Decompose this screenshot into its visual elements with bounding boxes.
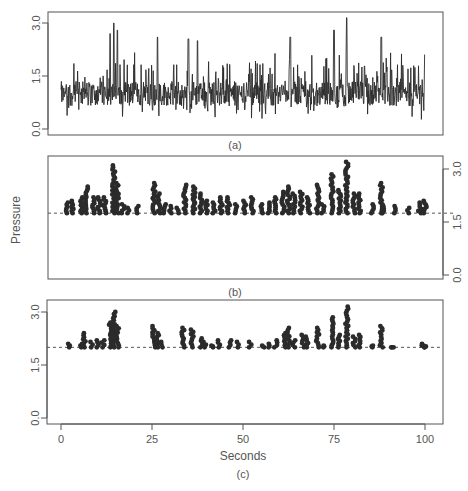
data-point [198,191,203,196]
data-point [407,206,412,211]
data-point [344,160,349,165]
data-point [114,181,119,186]
data-point [290,191,295,196]
data-point [113,310,118,315]
data-point [298,190,303,195]
data-point [392,204,397,209]
data-point [94,338,99,343]
data-point [337,333,342,338]
panel-a-caption: (a) [228,139,241,151]
data-point [336,188,341,193]
data-point [315,326,320,331]
data-point [378,324,383,329]
data-point [357,191,362,196]
data-point [225,195,230,200]
panel-c-y-axis: 3.0 1.5 0.0 [29,304,47,425]
panel-a-ytick-3: 3.0 [30,15,42,30]
data-point [96,195,101,200]
panel-a-line-series [61,18,425,120]
data-point [274,338,279,343]
data-point [379,181,384,186]
data-point [421,343,426,348]
data-point [102,338,107,343]
data-point [180,326,185,331]
data-point [155,331,160,336]
panel-a-ytick-0: 0.0 [30,121,42,136]
data-point [191,184,196,189]
data-point [201,340,206,345]
data-point [266,341,271,346]
panel-c-exceedances-threshold-2-0: 3.0 1.5 0.0 0 25 50 75 100 Seconds (c) [29,300,443,480]
data-point [111,163,116,168]
figure: 3.0 1.5 0.0 (a) 3.0 1.5 0.0 (b) Pressur [0,0,468,491]
data-point [303,334,308,339]
data-point [293,338,298,343]
data-point [241,198,246,203]
panel-a-ytick-1-5: 1.5 [30,68,42,83]
panel-b-y-axis-right: 3.0 1.5 0.0 [443,161,463,282]
data-point [315,183,320,188]
data-point [260,202,265,207]
data-point [114,324,119,329]
data-point [152,181,157,186]
data-point [229,338,234,343]
pressure-line [61,18,425,120]
data-point [370,202,375,207]
data-point [211,200,216,205]
panel-c-ytick-1-5: 1.5 [29,357,41,372]
data-point [157,191,162,196]
panel-b-ytick-3: 3.0 [451,161,463,176]
data-point [249,195,254,200]
x-axis-label: Seconds [220,449,267,463]
panel-b-scatter-points [64,160,429,216]
data-point [380,202,385,207]
data-point [102,195,107,200]
panel-c-x-axis: 0 25 50 75 100 [58,424,434,445]
data-point [69,198,74,203]
x-tick-0: 0 [58,433,64,445]
x-tick-50: 50 [237,433,249,445]
data-point [273,195,278,200]
data-point [235,340,240,345]
data-point [82,331,87,336]
panel-c-scatter-points [66,304,429,349]
panel-b-caption: (b) [228,286,241,298]
data-point [319,202,324,207]
panel-c-caption: (c) [237,468,250,480]
x-tick-25: 25 [146,433,158,445]
panel-b-frame [48,156,443,279]
data-point [371,343,376,348]
y-axis-label: Pressure [9,196,23,244]
data-point [233,202,238,207]
data-point [216,338,221,343]
data-point [189,327,194,332]
data-point [174,206,179,211]
data-point [125,206,130,211]
data-point [299,333,304,338]
x-tick-100: 100 [416,433,434,445]
panel-c-frame [47,300,443,424]
data-point [287,326,292,331]
data-point [321,343,326,348]
data-point [345,304,350,309]
panel-a-y-axis: 3.0 1.5 0.0 [30,15,48,136]
data-point [150,324,155,329]
data-point [205,198,210,203]
data-point [136,204,141,209]
panel-a-time-series: 3.0 1.5 0.0 (a) [30,12,443,151]
data-point [357,333,362,338]
x-tick-75: 75 [328,433,340,445]
data-point [267,200,272,205]
data-point [168,204,173,209]
data-point [85,184,90,189]
data-point [184,183,189,188]
data-point [329,172,334,177]
panel-c-ytick-3: 3.0 [29,304,41,319]
data-point [286,184,291,189]
data-point [209,343,214,348]
data-point [260,343,265,348]
data-point [421,198,426,203]
panel-b-ytick-1-5: 1.5 [451,214,463,229]
data-point [389,345,394,350]
data-point [247,340,252,345]
